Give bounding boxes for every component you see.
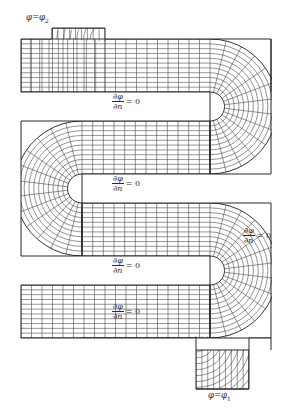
serpentine-mesh-figure: φ=φ2 ∂φ ∂n = 0 ∂φ ∂n = 0 ∂φ ∂n = 0 ∂φ ∂n… [0, 0, 300, 413]
label-dirichlet-outlet: φ=φ1 [208, 391, 231, 402]
neumann-numerator-right: ∂φ [243, 227, 255, 235]
neumann-numerator-1: ∂φ [112, 93, 124, 101]
label-outlet-equals: = [214, 390, 221, 400]
neumann-denominator-2: ∂n [112, 183, 124, 193]
neumann-equals-1: = 0 [124, 98, 140, 106]
label-dirichlet-inlet: φ=φ2 [26, 13, 49, 24]
label-neumann-right-wall: ∂φ ∂n = 0 [243, 227, 271, 246]
neumann-denominator-right: ∂n [243, 235, 255, 245]
neumann-equals-4: = 0 [124, 308, 140, 316]
neumann-fraction-2: ∂φ ∂n [112, 175, 124, 194]
neumann-fraction-right: ∂φ ∂n [243, 227, 255, 246]
neumann-equals-2: = 0 [124, 180, 140, 188]
label-inlet-equals: = [32, 12, 39, 22]
label-inlet-index: 2 [45, 17, 49, 24]
neumann-denominator-3: ∂n [112, 265, 124, 275]
neumann-numerator-4: ∂φ [112, 303, 124, 311]
neumann-fraction-4: ∂φ ∂n [112, 303, 124, 322]
neumann-numerator-2: ∂φ [112, 175, 124, 183]
neumann-fraction-1: ∂φ ∂n [112, 93, 124, 112]
neumann-equals-right: = 0 [255, 232, 271, 240]
label-neumann-slot-3: ∂φ ∂n = 0 [112, 257, 140, 276]
label-neumann-slot-4: ∂φ ∂n = 0 [112, 303, 140, 322]
label-neumann-slot-1: ∂φ ∂n = 0 [112, 93, 140, 112]
neumann-denominator-1: ∂n [112, 101, 124, 111]
neumann-fraction-3: ∂φ ∂n [112, 257, 124, 276]
curvilinear-mesh-drawing [0, 0, 300, 413]
neumann-denominator-4: ∂n [112, 311, 124, 321]
label-outlet-index: 1 [227, 395, 231, 402]
neumann-equals-3: = 0 [124, 262, 140, 270]
label-neumann-slot-2: ∂φ ∂n = 0 [112, 175, 140, 194]
neumann-numerator-3: ∂φ [112, 257, 124, 265]
